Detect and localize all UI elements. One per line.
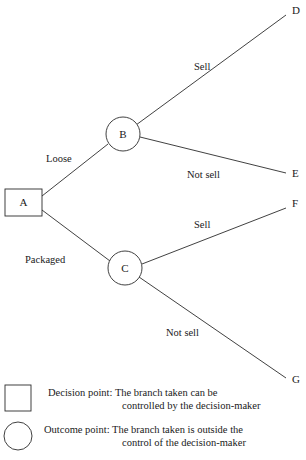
edge-b-to-e xyxy=(140,137,286,173)
legend-outcome-line2: control of the decision-maker xyxy=(122,437,246,448)
legend-circle-icon xyxy=(4,422,32,450)
edge-b-to-d xyxy=(136,15,286,125)
branch-label-not-sell-upper: Not sell xyxy=(187,169,220,180)
branch-label-sell-upper: Sell xyxy=(194,61,210,72)
branch-label-loose: Loose xyxy=(46,153,72,164)
legend-item-decision-point: Decision point: The branch taken can be … xyxy=(5,385,261,411)
branch-label-sell-lower: Sell xyxy=(194,219,210,230)
endpoint-label-f: F xyxy=(292,197,298,209)
node-c-label: C xyxy=(121,262,128,274)
legend-decision-line1: Decision point: The branch taken can be xyxy=(48,387,218,398)
endpoint-label-g: G xyxy=(292,373,300,385)
node-a-label: A xyxy=(20,196,28,208)
endpoint-label-e: E xyxy=(292,167,299,179)
branch-label-packaged: Packaged xyxy=(25,254,66,265)
edge-c-to-f xyxy=(142,208,286,264)
legend-outcome-line1: Outcome point: The branch taken is outsi… xyxy=(44,424,243,435)
decision-tree-diagram: A B C Loose Packaged Sell Not sell Sell … xyxy=(0,0,306,460)
branch-label-not-sell-lower: Not sell xyxy=(166,327,199,338)
edge-a-to-b xyxy=(42,144,108,196)
legend: Decision point: The branch taken can be … xyxy=(4,385,261,450)
legend-item-outcome-point: Outcome point: The branch taken is outsi… xyxy=(4,422,246,450)
endpoint-label-d: D xyxy=(292,4,300,16)
edge-c-to-g xyxy=(139,277,286,378)
node-b-label: B xyxy=(119,128,126,140)
tree-canvas: A B C Loose Packaged Sell Not sell Sell … xyxy=(0,0,306,460)
legend-square-icon xyxy=(5,385,31,411)
legend-decision-line2: controlled by the decision-maker xyxy=(122,400,261,411)
